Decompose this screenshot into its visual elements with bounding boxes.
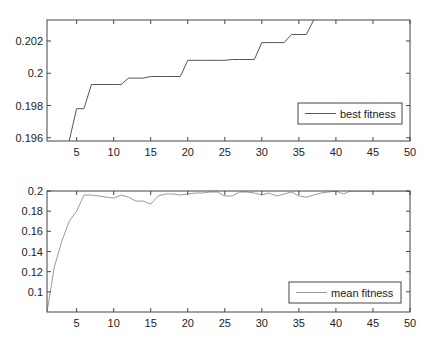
x-tick-label: 35 <box>293 317 305 329</box>
x-tick-label: 25 <box>219 146 231 158</box>
x-tick-label: 5 <box>74 146 80 158</box>
legend-label: mean fitness <box>331 287 394 299</box>
y-tick-label: 0.2 <box>28 185 43 197</box>
x-tick-label: 10 <box>108 317 120 329</box>
x-tick-label: 10 <box>108 146 120 158</box>
y-tick-label: 0.14 <box>22 246 43 258</box>
x-tick-label: 40 <box>330 317 342 329</box>
y-tick-label: 0.198 <box>15 100 43 112</box>
x-tick-label: 15 <box>145 146 157 158</box>
x-tick-label: 30 <box>256 317 268 329</box>
x-tick-label: 30 <box>256 146 268 158</box>
y-tick-label: 0.18 <box>22 205 43 217</box>
y-tick-label: 0.12 <box>22 266 43 278</box>
x-tick-label: 50 <box>404 317 416 329</box>
y-tick-label: 0.1 <box>28 286 43 298</box>
x-tick-label: 40 <box>330 146 342 158</box>
x-tick-label: 50 <box>404 146 416 158</box>
x-tick-label: 45 <box>367 146 379 158</box>
x-tick-label: 45 <box>367 317 379 329</box>
y-tick-label: 0.202 <box>15 35 43 47</box>
best-fitness-line <box>47 20 314 146</box>
y-tick-label: 0.196 <box>15 132 43 144</box>
x-tick-label: 20 <box>182 146 194 158</box>
legend-mean-fitness: mean fitness <box>289 282 401 303</box>
chart-canvas: 51015202530354045500.1960.1980.20.202bes… <box>0 0 431 352</box>
x-tick-label: 15 <box>145 317 157 329</box>
best-fitness-axes: 51015202530354045500.1960.1980.20.202bes… <box>15 20 416 158</box>
x-tick-label: 25 <box>219 317 231 329</box>
y-tick-label: 0.2 <box>28 67 43 79</box>
y-tick-label: 0.16 <box>22 225 43 237</box>
legend-best-fitness: best fitness <box>298 103 402 124</box>
x-tick-label: 20 <box>182 317 194 329</box>
x-tick-label: 35 <box>293 146 305 158</box>
mean-fitness-axes: 51015202530354045500.10.120.140.160.180.… <box>22 185 417 329</box>
legend-label: best fitness <box>340 108 396 120</box>
x-tick-label: 5 <box>74 317 80 329</box>
